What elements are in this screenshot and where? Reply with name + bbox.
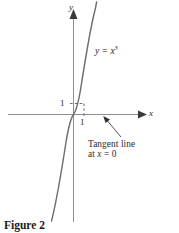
curve-equation-base: y = x	[95, 46, 115, 56]
curve-equation-label: y = x3	[95, 44, 118, 57]
figure-container: y x y = x3 1 1 Tangent line at x = 0 Fig…	[0, 0, 179, 233]
x-axis-arrowhead	[138, 111, 147, 119]
cubic-curve	[52, 2, 97, 221]
x-axis-label: x	[149, 108, 153, 118]
tangent-annotation: Tangent line at x = 0	[88, 139, 135, 160]
tangent-annotation-line-2: at x = 0	[88, 149, 135, 159]
y-axis-tick-label-one: 1	[60, 98, 65, 108]
y-axis-label: y	[69, 2, 73, 12]
x-axis-tick-label-one: 1	[80, 117, 85, 127]
tangent-annotation-at: at	[88, 149, 97, 159]
curve-equation-exponent: 3	[115, 44, 118, 51]
tangent-annotation-line-1: Tangent line	[88, 139, 135, 149]
figure-caption: Figure 2	[4, 219, 45, 231]
tangent-annotation-value: = 0	[102, 149, 117, 159]
